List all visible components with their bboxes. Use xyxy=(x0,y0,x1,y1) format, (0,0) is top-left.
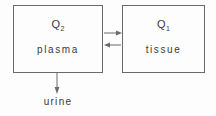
tissue-compartment-box: Q1 tissue xyxy=(122,5,205,73)
two-compartment-diagram: Q2 plasma Q1 tissue urine xyxy=(0,0,216,116)
plasma-quantity-label: Q2 xyxy=(14,18,102,32)
plasma-quantity-symbol: Q xyxy=(52,18,61,30)
plasma-to-urine-arrow xyxy=(55,73,60,94)
tissue-quantity-symbol: Q xyxy=(157,18,166,30)
tissue-compartment-label: tissue xyxy=(123,44,204,55)
plasma-compartment-box: Q2 plasma xyxy=(13,5,103,73)
urine-output-label: urine xyxy=(30,96,86,107)
plasma-compartment-label: plasma xyxy=(14,44,102,55)
plasma-to-tissue-arrow xyxy=(104,31,122,36)
plasma-quantity-subscript: 2 xyxy=(61,25,65,32)
tissue-quantity-subscript: 1 xyxy=(166,25,170,32)
tissue-quantity-label: Q1 xyxy=(123,18,204,32)
tissue-to-plasma-arrow xyxy=(104,43,121,48)
